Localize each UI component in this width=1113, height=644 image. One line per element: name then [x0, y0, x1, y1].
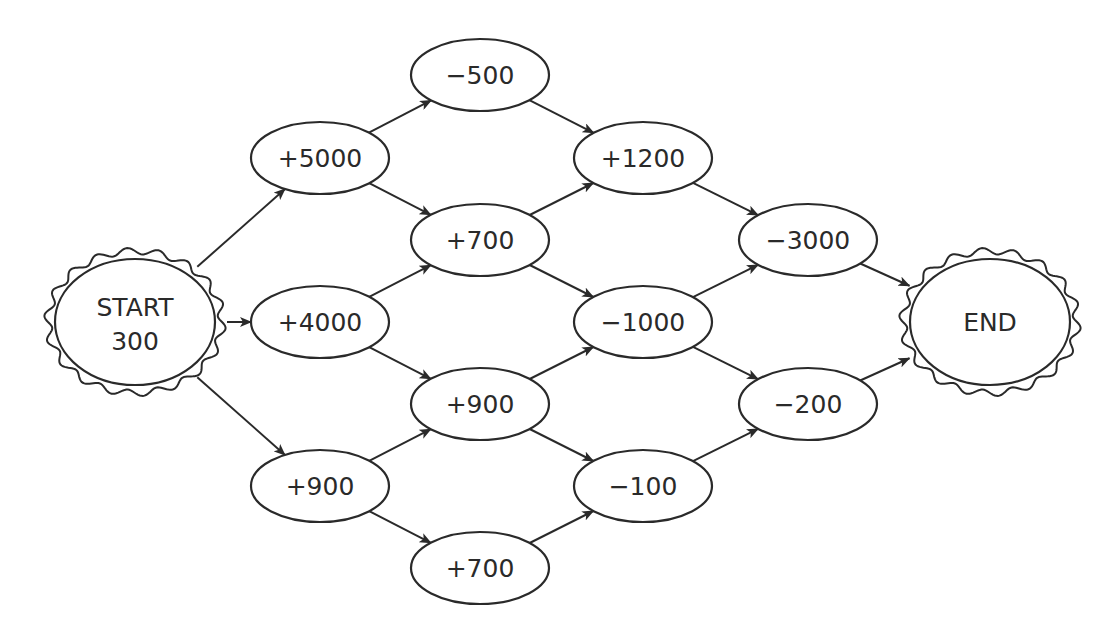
end-label: END	[963, 308, 1017, 337]
start-node: START 300	[44, 248, 225, 396]
node-value: −3000	[766, 226, 851, 255]
edge-arrow-c1c-to-c2c	[369, 429, 431, 461]
diagram-canvas: START 300 END +5000 +4000 +900 −500 +700…	[0, 0, 1113, 644]
start-label: START	[96, 293, 174, 322]
edge-arrow-c1c-to-c2d	[369, 511, 431, 543]
node-plus-4000: +4000	[251, 286, 389, 358]
edge-arrow-c3a-to-c4a	[693, 183, 758, 215]
edge-arrow-c1a-to-c2b	[369, 183, 431, 215]
node-value: +900	[286, 472, 355, 501]
edge-arrow-c2b-to-c3b	[530, 265, 594, 297]
node-value: −1000	[601, 308, 686, 337]
node-minus-3000: −3000	[739, 204, 877, 276]
node-minus-100: −100	[574, 450, 712, 522]
node-plus-1200: +1200	[574, 122, 712, 194]
start-ellipse	[55, 259, 215, 385]
node-plus-700-lower: +700	[411, 532, 549, 604]
node-value: −500	[446, 61, 515, 90]
node-plus-900-col1: +900	[251, 450, 389, 522]
node-value: +700	[446, 226, 515, 255]
edge-arrow-c1b-to-c2c	[369, 347, 431, 379]
edge-arrow-c3b-to-c4b	[693, 347, 758, 379]
node-value: +700	[446, 554, 515, 583]
node-minus-500: −500	[411, 39, 549, 111]
node-plus-900-col2: +900	[411, 368, 549, 440]
edge-arrow-c2c-to-c3b	[530, 347, 594, 379]
start-value: 300	[111, 327, 159, 356]
flow-diagram: START 300 END +5000 +4000 +900 −500 +700…	[0, 0, 1113, 644]
end-node: END	[899, 248, 1080, 396]
node-value: +4000	[278, 308, 363, 337]
node-value: −200	[774, 390, 843, 419]
node-value: +1200	[601, 144, 686, 173]
node-plus-5000: +5000	[251, 122, 389, 194]
node-value: +900	[446, 390, 515, 419]
edge-arrow-start-to-c1a	[197, 189, 285, 267]
node-minus-1000: −1000	[574, 286, 712, 358]
node-value: +5000	[278, 144, 363, 173]
edge-arrow-c3b-to-c4a	[693, 265, 758, 297]
edge-arrow-c2d-to-c3c	[530, 511, 594, 543]
nodes-layer: START 300 END +5000 +4000 +900 −500 +700…	[44, 39, 1080, 604]
node-minus-200: −200	[739, 368, 877, 440]
edge-arrow-c3c-to-c4b	[693, 429, 758, 461]
edge-arrow-c2c-to-c3c	[530, 429, 594, 461]
edge-arrow-c2b-to-c3a	[530, 183, 594, 215]
edge-arrow-c2a-to-c3a	[529, 100, 593, 133]
edge-arrow-c1b-to-c2b	[369, 265, 431, 297]
edge-arrow-c1a-to-c2a	[369, 100, 431, 132]
edge-arrow-c4b-to-end	[860, 358, 909, 380]
node-value: −100	[609, 472, 678, 501]
edge-arrow-start-to-c1c	[197, 377, 285, 455]
edge-arrow-c4a-to-end	[860, 264, 909, 286]
node-plus-700-upper: +700	[411, 204, 549, 276]
